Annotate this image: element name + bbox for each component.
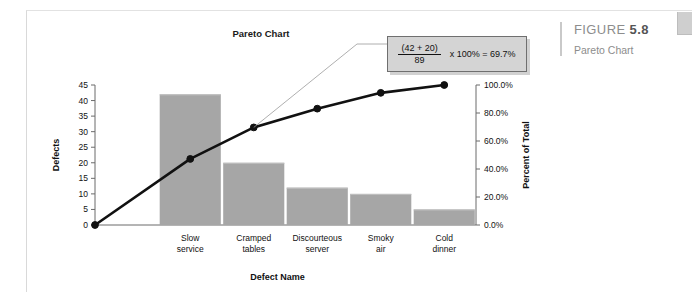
y-axis-title: Defects [51,139,61,172]
cumulative-point [377,89,384,96]
y-tick-label: 10 [79,189,89,199]
fraction-denominator: 89 [412,55,428,65]
category-label: Slow [181,233,200,243]
category-label: service [177,244,204,254]
category-label: dinner [432,244,456,254]
cumulative-point [441,82,448,89]
fraction: (42 + 20) 89 [398,44,440,65]
category-label: Cramped [236,233,271,243]
y-tick-label: 30 [79,127,89,137]
figure-caption: FIGURE 5.8 Pareto Chart [560,22,680,56]
category-label: server [305,244,329,254]
y2-axis-title: Percent of Total [521,121,531,188]
pareto-chart: Pareto Chart 051015202530354045Defects0.… [26,10,566,292]
y-tick-label: 45 [79,80,89,90]
y2-tick-label: 100.0% [484,80,513,90]
y-tick-label: 25 [79,142,89,152]
category-label: Smoky [368,233,395,243]
y-tick-label: 40 [79,96,89,106]
figure-caption-text: Pareto Chart [574,44,680,56]
cumulative-point [314,105,321,112]
figure-label: FIGURE 5.8 [574,22,680,37]
category-label: Discourteous [292,233,342,243]
cumulative-point [187,156,194,163]
category-label: Cold [436,233,454,243]
y2-tick-label: 80.0% [484,108,509,118]
y2-tick-label: 40.0% [484,164,509,174]
left-axis [95,85,476,225]
bar [350,194,411,225]
figure-label-prefix: FIGURE [574,22,626,37]
category-label: air [376,244,386,254]
y-tick-label: 35 [79,111,89,121]
y2-tick-label: 20.0% [484,192,509,202]
y2-tick-label: 0.0% [484,220,504,230]
annotation-callout: (42 + 20) 89 x 100% = 69.7% [387,36,527,72]
bar [414,209,475,225]
annotation-expression: x 100% = 69.7% [450,49,516,59]
screenshot-root: Pareto Chart 051015202530354045Defects0.… [0,0,692,292]
bar [223,163,284,225]
cumulative-point [92,222,99,229]
y-tick-label: 20 [79,158,89,168]
y-tick-label: 0 [83,220,88,230]
figure-number: 5.8 [630,22,649,37]
annotation-leader-line [254,44,387,127]
y-tick-label: 15 [79,173,89,183]
category-label: tables [242,244,265,254]
fraction-numerator: (42 + 20) [398,44,440,54]
y-tick-label: 5 [83,204,88,214]
bar [287,188,348,225]
x-axis-title: Defect Name [250,272,305,282]
y2-tick-label: 60.0% [484,136,509,146]
